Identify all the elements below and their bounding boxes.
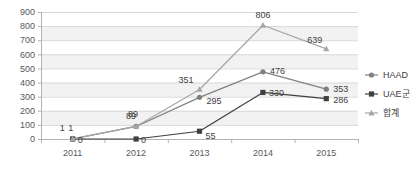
x-axis-tick-label: 2014: [253, 148, 273, 158]
grid-band: [41, 111, 358, 125]
x-axis-tick-label: 2012: [126, 148, 146, 158]
legend-marker-square: [369, 91, 374, 96]
y-axis-tick-label: 500: [20, 64, 35, 74]
chart-legend: HAADUAE군합계: [365, 70, 410, 118]
y-axis-tick-label: 0: [30, 134, 35, 144]
series-marker-triangle: [260, 22, 266, 28]
legend-label: UAE군: [383, 89, 410, 99]
series-marker-square: [197, 129, 202, 134]
data-point-label: 1: [68, 123, 73, 133]
data-point-label: 89: [126, 111, 136, 121]
x-axis-tick-labels: 20112012201320142015: [63, 148, 336, 158]
series-marker-circle: [260, 69, 265, 74]
legend-label: HAAD: [383, 70, 409, 80]
data-point-label: 286: [333, 95, 348, 105]
series-marker-circle: [324, 87, 329, 92]
line-chart: 0100200300400500600700800900 20112012201…: [0, 0, 419, 179]
data-point-label: 353: [333, 84, 348, 94]
grid-band: [41, 54, 358, 68]
y-axis-tick-label: 800: [20, 21, 35, 31]
y-axis-tick-label: 300: [20, 92, 35, 102]
series-marker-circle: [197, 95, 202, 100]
x-axis-tick-label: 2015: [316, 148, 336, 158]
legend-label: 합계: [383, 107, 399, 118]
chart-canvas: 0100200300400500600700800900 20112012201…: [0, 0, 419, 179]
data-point-label: 55: [206, 131, 216, 141]
series-marker-square: [324, 96, 329, 101]
series-marker-square: [260, 90, 265, 95]
y-axis-tick-label: 600: [20, 50, 35, 60]
legend-marker-circle: [369, 72, 374, 77]
data-point-label: 0: [141, 135, 146, 145]
data-point-label: 476: [270, 66, 285, 76]
y-axis-tick-label: 100: [20, 120, 35, 130]
data-point-label: 639: [307, 35, 322, 45]
y-axis-tick-label: 700: [20, 35, 35, 45]
x-axis-tick-label: 2013: [189, 148, 209, 158]
y-axis-tick-label: 400: [20, 78, 35, 88]
data-point-label: 1: [60, 123, 65, 133]
y-axis-tick-label: 200: [20, 106, 35, 116]
y-axis-tick-label: 900: [20, 7, 35, 17]
data-point-label: 0: [78, 135, 83, 145]
series-marker-square: [134, 136, 139, 141]
data-point-label: 806: [255, 10, 270, 20]
y-axis-tick-labels: 0100200300400500600700800900: [20, 7, 41, 144]
x-axis-tick-label: 2011: [63, 148, 82, 158]
data-point-label: 295: [207, 96, 222, 106]
data-point-label: 351: [178, 75, 193, 85]
data-point-label: 330: [269, 88, 284, 98]
